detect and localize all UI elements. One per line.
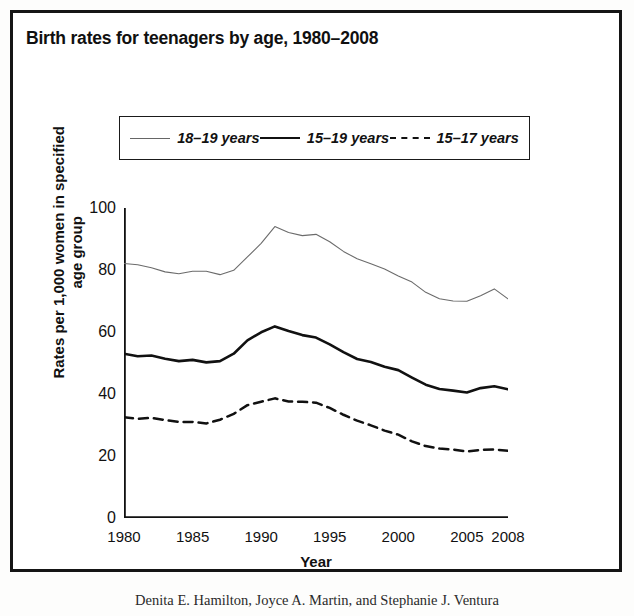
- legend-item-18-19: 18–19 years: [130, 130, 259, 146]
- page-title: Birth rates for teenagers by age, 1980–2…: [26, 28, 378, 49]
- x-axis-tick-labels: 1980198519901995200020052008: [124, 528, 508, 550]
- series-line-2: [124, 398, 508, 451]
- y-axis-title: Rates per 1,000 women in specified age g…: [50, 122, 87, 382]
- series-line-1: [124, 326, 508, 392]
- x-tick-2008: 2008: [491, 528, 524, 545]
- plot-area: [124, 208, 508, 518]
- plot-svg: [124, 208, 508, 518]
- chart-figure: Birth rates for teenagers by age, 1980–2…: [0, 0, 634, 616]
- legend-label-18-19: 18–19 years: [177, 130, 259, 146]
- legend-line-dashed-icon: [390, 137, 430, 139]
- legend-line-thick-icon: [260, 137, 300, 139]
- y-tick-0: 0: [107, 509, 116, 527]
- y-tick-60: 60: [98, 323, 116, 341]
- legend-label-15-17: 15–17 years: [437, 130, 519, 146]
- x-tick-1990: 1990: [244, 528, 277, 545]
- x-tick-1985: 1985: [176, 528, 209, 545]
- x-tick-2000: 2000: [382, 528, 415, 545]
- y-tick-100: 100: [89, 199, 116, 217]
- x-tick-1995: 1995: [313, 528, 346, 545]
- y-axis-title-line2: age group: [68, 122, 86, 382]
- y-axis-title-line1: Rates per 1,000 women in specified: [50, 122, 68, 382]
- figure-caption: Denita E. Hamilton, Joyce A. Martin, and…: [0, 592, 634, 616]
- legend-item-15-19: 15–19 years: [260, 130, 389, 146]
- y-tick-40: 40: [98, 385, 116, 403]
- y-tick-80: 80: [98, 261, 116, 279]
- x-axis-title: Year: [124, 553, 508, 570]
- y-tick-20: 20: [98, 447, 116, 465]
- legend-label-15-19: 15–19 years: [307, 130, 389, 146]
- x-tick-1980: 1980: [107, 528, 140, 545]
- legend-line-thin-icon: [130, 138, 170, 139]
- series-line-0: [124, 227, 508, 302]
- chart-legend: 18–19 years 15–19 years 15–17 years: [119, 116, 530, 160]
- x-tick-2005: 2005: [450, 528, 483, 545]
- legend-item-15-17: 15–17 years: [390, 130, 519, 146]
